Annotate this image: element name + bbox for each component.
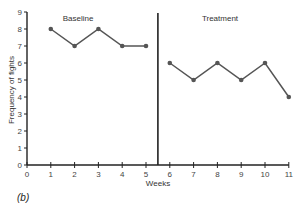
x-tick-label: 6 bbox=[168, 170, 173, 179]
x-tick-label: 7 bbox=[191, 170, 196, 179]
data-point-marker bbox=[144, 44, 149, 49]
y-tick-label: 2 bbox=[18, 127, 23, 136]
y-tick-label: 5 bbox=[18, 76, 23, 85]
x-tick-label: 4 bbox=[120, 170, 125, 179]
y-tick-label: 9 bbox=[18, 8, 23, 17]
data-point-marker bbox=[49, 27, 54, 32]
y-axis: 0123456789 bbox=[18, 8, 27, 170]
baseline-label: Baseline bbox=[63, 14, 94, 23]
y-tick-label: 1 bbox=[18, 144, 23, 153]
data-point-marker bbox=[239, 78, 244, 83]
data-point-marker bbox=[120, 44, 125, 49]
data-series bbox=[49, 27, 292, 100]
x-tick-label: 8 bbox=[215, 170, 220, 179]
x-tick-label: 10 bbox=[261, 170, 270, 179]
data-point-marker bbox=[191, 78, 196, 83]
x-tick-label: 0 bbox=[25, 170, 30, 179]
x-tick-label: 2 bbox=[72, 170, 77, 179]
x-tick-label: 11 bbox=[285, 170, 294, 179]
x-tick-label: 5 bbox=[144, 170, 149, 179]
data-point-marker bbox=[72, 44, 77, 49]
treatment-label: Treatment bbox=[202, 14, 239, 23]
data-point-marker bbox=[263, 61, 268, 66]
y-tick-label: 8 bbox=[18, 25, 23, 34]
y-tick-label: 0 bbox=[18, 161, 23, 170]
y-tick-label: 3 bbox=[18, 110, 23, 119]
x-axis-title: Weeks bbox=[146, 179, 170, 188]
x-tick-label: 3 bbox=[96, 170, 101, 179]
x-tick-label: 1 bbox=[49, 170, 54, 179]
single-case-design-chart: 0123456789 01234567891011 Baseline Treat… bbox=[0, 0, 299, 206]
y-tick-label: 4 bbox=[18, 93, 23, 102]
series-baseline bbox=[49, 27, 149, 49]
panel-label: (b) bbox=[17, 192, 29, 203]
y-tick-label: 7 bbox=[18, 42, 23, 51]
data-point-marker bbox=[96, 27, 101, 32]
series-treatment bbox=[168, 61, 292, 100]
y-tick-label: 6 bbox=[18, 59, 23, 68]
x-axis: 01234567891011 bbox=[25, 162, 294, 179]
x-tick-label: 9 bbox=[239, 170, 244, 179]
data-point-marker bbox=[287, 95, 292, 100]
data-point-marker bbox=[168, 61, 173, 66]
y-axis-title: Frequency of fights bbox=[7, 56, 16, 124]
data-point-marker bbox=[215, 61, 220, 66]
